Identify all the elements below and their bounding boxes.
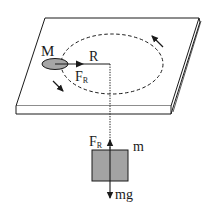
label-mass-M: M — [41, 44, 54, 59]
label-force-FR-hanging: FR — [89, 135, 102, 150]
force-symbol: F — [75, 69, 83, 84]
diagram-canvas — [0, 0, 210, 215]
force-subscript: R — [83, 76, 88, 85]
label-radius-R: R — [89, 50, 98, 64]
physics-diagram: M R FR FR m mg — [0, 0, 210, 215]
force-symbol: F — [89, 134, 97, 149]
label-force-FR-table: FR — [75, 70, 88, 85]
force-subscript: R — [97, 141, 102, 150]
label-weight-mg: mg — [115, 188, 133, 202]
label-mass-m: m — [133, 140, 144, 154]
